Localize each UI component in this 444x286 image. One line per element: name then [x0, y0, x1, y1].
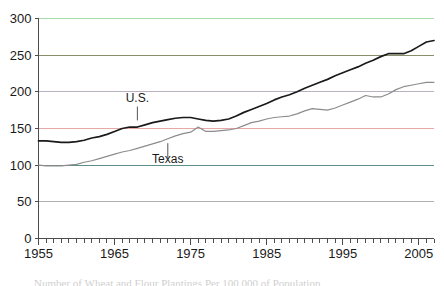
line-chart: 0501001502002503001955196519751985199520…	[0, 0, 444, 286]
y-tick-label-0: 0	[24, 231, 31, 246]
annotation-leaders	[137, 107, 167, 158]
chart-canvas: 0501001502002503001955196519751985199520…	[0, 0, 444, 286]
series-label-texas: Texas	[152, 152, 183, 166]
x-tick-label-1995: 1995	[328, 246, 357, 261]
y-tick-label-200: 200	[10, 84, 32, 99]
x-tick-label-1985: 1985	[252, 246, 281, 261]
x-tick-label-1975: 1975	[176, 246, 205, 261]
series-line-texas	[39, 82, 435, 166]
x-tick-label-1965: 1965	[100, 246, 129, 261]
x-axis-ticks: 195519651975198519952005	[24, 239, 434, 261]
figure-caption-clipped: Number of Wheat and Flour Plantings Per …	[0, 278, 444, 286]
y-tick-label-300: 300	[10, 11, 32, 26]
series-label-us: U.S.	[126, 91, 149, 105]
x-tick-label-1955: 1955	[24, 246, 53, 261]
y-tick-label-50: 50	[17, 194, 31, 209]
y-tick-label-150: 150	[10, 121, 32, 136]
figure-caption-text: Number of Wheat and Flour Plantings Per …	[0, 278, 444, 286]
y-tick-label-100: 100	[10, 158, 32, 173]
y-tick-label-250: 250	[10, 48, 32, 63]
data-series	[39, 41, 435, 166]
y-axis-ticks: 050100150200250300	[10, 11, 39, 246]
x-tick-label-2005: 2005	[404, 246, 433, 261]
